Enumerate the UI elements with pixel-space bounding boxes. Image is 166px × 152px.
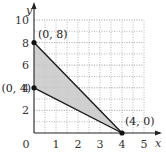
x-tick-label: 1: [53, 138, 60, 151]
vertex-point: [31, 40, 36, 45]
x-axis-label: x: [155, 137, 162, 150]
x-tick-label: 2: [75, 138, 82, 151]
vertex-point: [119, 130, 124, 135]
y-tick-label: 6: [22, 59, 29, 72]
y-axis-arrow: [32, 2, 37, 9]
x-tick-label: 5: [141, 138, 148, 151]
shaded-region-layer: [34, 43, 122, 133]
x-tick-label: 0: [23, 138, 30, 151]
y-tick-label: 2: [22, 104, 29, 117]
vertex-label: (4, 0): [125, 115, 155, 128]
y-tick-label: 10: [15, 14, 29, 27]
x-axis-arrow: [155, 131, 162, 136]
x-tick-label: 3: [97, 138, 104, 151]
vertex-label: (0, 8): [38, 28, 68, 41]
feasible-region-chart: xy 012345246810 (0, 8)(0, 4)(4, 0): [0, 0, 166, 152]
vertex-label: (0, 4): [1, 82, 31, 95]
vertex-point: [31, 85, 36, 90]
x-tick-label: 4: [119, 138, 126, 151]
y-tick-label: 8: [22, 37, 29, 50]
